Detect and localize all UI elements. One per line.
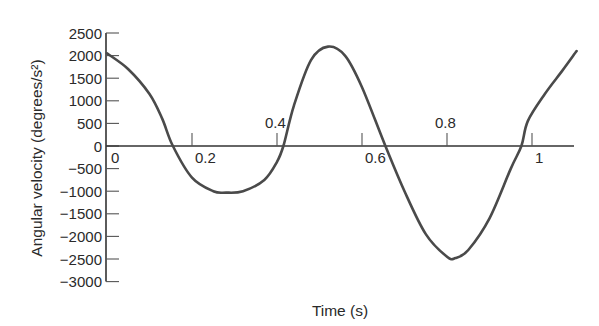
y-tick-label: −1000: [60, 183, 102, 200]
y-tick-label: 1000: [69, 92, 102, 109]
y-tick-label: −3000: [60, 273, 102, 290]
y-tick-label: −500: [68, 160, 102, 177]
x-axis: 00.20.40.60.81: [106, 114, 574, 166]
line-chart: Angular velocity (degrees/s²) Time (s) 2…: [0, 0, 599, 326]
angular-velocity-curve: [107, 46, 577, 259]
y-tick-label: 500: [77, 115, 102, 132]
y-tick-label: 2000: [69, 47, 102, 64]
x-tick-label: 0.8: [435, 114, 456, 131]
y-tick-label: −2500: [60, 251, 102, 268]
y-tick-label: −1500: [60, 205, 102, 222]
x-tick-label: 0: [111, 149, 119, 166]
x-tick-label: 0.2: [195, 149, 216, 166]
x-tick-label: 0.4: [265, 114, 286, 131]
x-tick-label: 0.6: [365, 149, 386, 166]
x-axis-title: Time (s): [312, 302, 368, 319]
x-tick-label: 1: [535, 149, 543, 166]
y-tick-label: −2000: [60, 228, 102, 245]
y-axis-title: Angular velocity (degrees/s²): [28, 59, 45, 256]
y-tick-label: 0: [94, 138, 102, 155]
y-tick-label: 1500: [69, 70, 102, 87]
y-tick-label: 2500: [69, 25, 102, 42]
